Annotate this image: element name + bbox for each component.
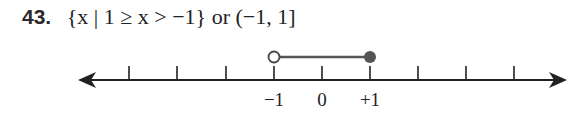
tick-marks xyxy=(129,66,514,80)
label-zero: 0 xyxy=(317,89,327,111)
closed-endpoint-icon xyxy=(364,51,376,63)
label-neg-one: −1 xyxy=(264,89,284,111)
label-pos-one: +1 xyxy=(360,89,380,111)
number-line xyxy=(0,0,583,122)
open-endpoint-icon xyxy=(269,52,280,63)
